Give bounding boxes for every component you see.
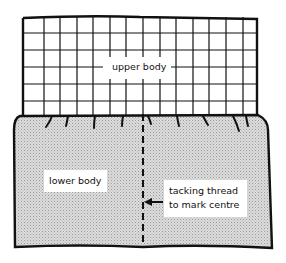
lower-body-label: lower body — [44, 170, 107, 192]
annotation-line-1: tacking thread — [169, 185, 238, 197]
annotation-line-2: to mark centre — [169, 199, 239, 211]
tacking-thread-annotation: tacking thread to mark centre — [164, 180, 247, 217]
upper-body-label: upper body — [109, 61, 169, 73]
garment-diagram — [0, 0, 286, 263]
